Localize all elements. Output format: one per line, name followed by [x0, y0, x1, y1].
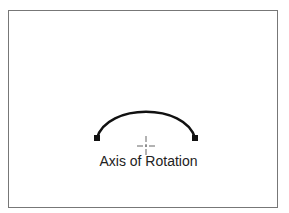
arc	[97, 112, 195, 138]
axis-label: Axis of Rotation	[4, 153, 289, 169]
arc-diagram	[0, 0, 289, 213]
left-endpoint-marker	[94, 135, 100, 141]
right-endpoint-marker	[192, 135, 198, 141]
